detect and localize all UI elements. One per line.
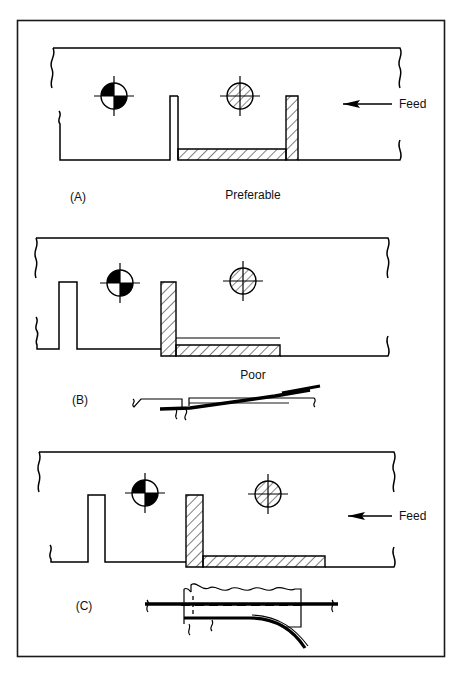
figure-root: Feed (A) Preferable <box>0 0 463 677</box>
panel-a-feed-label: Feed <box>399 97 426 111</box>
panel-c-label: (C) <box>76 599 93 613</box>
panel-c-feed-label: Feed <box>399 509 426 523</box>
panel-a-workpiece-web <box>286 96 298 160</box>
panel-b-workpiece-flange <box>176 345 280 356</box>
panel-a-caption: Preferable <box>225 188 281 202</box>
panel-b-label: (B) <box>72 393 88 407</box>
panel-b-workpiece-web <box>161 282 176 356</box>
panel-a-label: (A) <box>70 190 86 204</box>
panel-b-caption: Poor <box>240 368 265 382</box>
panel-c-workpiece-web <box>186 495 203 567</box>
engineering-drawing-canvas: Feed (A) Preferable <box>0 0 463 677</box>
panel-a-workpiece-flange <box>178 149 286 160</box>
panel-c-workpiece-flange <box>203 556 325 567</box>
